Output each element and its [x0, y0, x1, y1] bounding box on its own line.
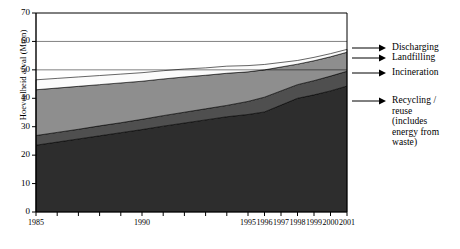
plot-area	[0, 0, 460, 249]
y-tick-label-30: 30	[8, 121, 30, 131]
y-tick-label-0: 0	[8, 206, 30, 216]
y-tick-label-50: 50	[8, 64, 30, 74]
x-tick-label-1990: 1990	[127, 218, 157, 227]
legend-arrow-head-2	[379, 70, 386, 77]
legend-item-label-1: Landfilling	[392, 52, 460, 63]
legend-arrow-head-1	[379, 55, 386, 62]
legend-item-label-2: Incineration	[392, 67, 460, 78]
y-tick-label-10: 10	[8, 178, 30, 188]
legend-item-label-3: Recycling /reuse(includesenergy fromwast…	[392, 95, 460, 148]
y-tick-label-70: 70	[8, 7, 30, 17]
legend-arrow-head-3	[379, 98, 386, 105]
waste-stacked-area-chart: Hoeveelheid afval (Mton) 010203040506070…	[0, 0, 460, 249]
y-tick-label-60: 60	[8, 35, 30, 45]
x-tick-label-2001: 2001	[332, 218, 362, 227]
y-tick-label-20: 20	[8, 149, 30, 159]
legend-item-label-0: Discharging	[392, 42, 460, 53]
x-tick-label-1985: 1985	[21, 218, 51, 227]
legend-arrow-head-0	[379, 45, 386, 52]
y-tick-label-40: 40	[8, 92, 30, 102]
